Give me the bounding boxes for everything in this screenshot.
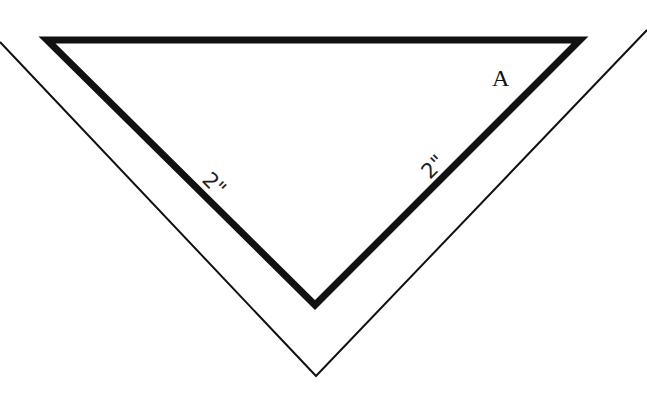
- triangle-diagram: A 2" 2": [0, 0, 647, 395]
- vertex-label-a: A: [492, 65, 510, 91]
